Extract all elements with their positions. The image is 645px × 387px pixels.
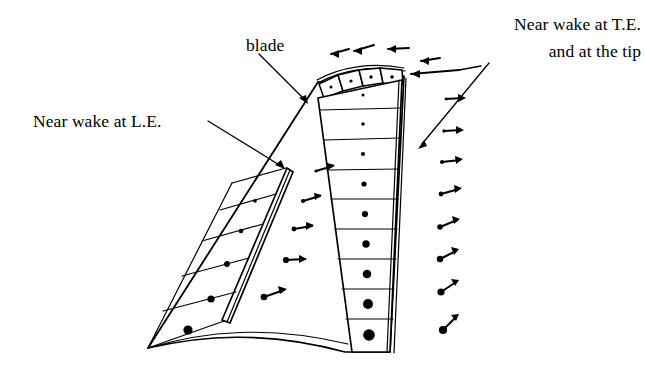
tip-top-arrow-4 [421, 57, 440, 65]
tip-top-arrow-3 [388, 45, 409, 53]
le-cell-dot-1 [253, 199, 257, 203]
te-right-arrow-5 [437, 216, 460, 230]
te-cell-dot-8 [363, 299, 373, 309]
te-cell-dot-3 [361, 152, 365, 156]
label-near-wake-tip: and at the tip [549, 41, 641, 61]
tip-cell-dot-1 [330, 86, 333, 89]
tip-top-arrow-5 [411, 70, 459, 78]
le-cell-dot-2 [239, 229, 244, 234]
te-label-dash [459, 66, 481, 70]
tip-top-arrow-1 [331, 49, 349, 58]
label-near-wake-te: Near wake at T.E. [514, 14, 641, 34]
tip-cell-dot-4 [390, 75, 394, 79]
tip-cell-dot-3 [369, 75, 372, 78]
label-blade: blade [246, 35, 285, 55]
tip-leader-line [422, 63, 489, 144]
figure-root: blade Near wake at L.E. Near wake at T.E… [0, 0, 645, 387]
te-right-arrow-7 [437, 279, 459, 296]
te-cell-dot-2 [361, 122, 365, 126]
te-cell-dot-9 [363, 329, 375, 341]
blade-leader-arrowhead [299, 95, 308, 104]
blade-wake-diagram: blade Near wake at L.E. Near wake at T.E… [0, 0, 645, 387]
le-cell-dot-5 [183, 325, 192, 334]
te-cell-dot-7 [363, 270, 372, 279]
tip-cell-dot-2 [349, 79, 352, 82]
le-cell-dot-3 [224, 261, 230, 267]
te-right-arrow-2 [442, 126, 464, 134]
te-right-arrow-3 [440, 156, 463, 164]
te-cell-dot-1 [362, 94, 365, 97]
te-right-arrow-8 [439, 314, 459, 334]
label-near-wake-le: Near wake at L.E. [33, 111, 162, 131]
te-cell-dot-6 [362, 240, 369, 247]
le-leader-line [208, 121, 281, 166]
te-right-arrow-6 [437, 247, 459, 262]
te-right-arrow-group [437, 94, 466, 334]
tip-top-arrow-2 [354, 45, 374, 55]
te-cell-dot-4 [361, 181, 366, 186]
te-cell-dot-5 [362, 211, 368, 217]
tip-leader-arrowhead [418, 140, 427, 149]
le-cell-dot-4 [207, 295, 214, 302]
blade-leader-line [259, 54, 305, 100]
te-right-arrow-4 [439, 185, 462, 196]
